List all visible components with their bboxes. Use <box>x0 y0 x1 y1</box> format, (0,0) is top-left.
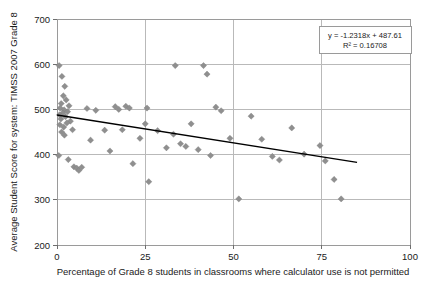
x-tick-label: 0 <box>54 251 59 262</box>
y-axis-title: Average Student Score for system: TIMSS … <box>8 12 19 251</box>
x-tick-label: 25 <box>140 251 151 262</box>
trendline-equation-text: y = -1.2318x + 487.61 <box>328 31 402 40</box>
chart-canvas: 200300400500600700 0255075100 y = -1.231… <box>0 0 431 293</box>
r-squared-text: R² = 0.16708 <box>343 41 387 50</box>
y-tick-label: 300 <box>34 194 50 205</box>
scatter-chart: 200300400500600700 0255075100 y = -1.231… <box>0 0 431 293</box>
y-axis-tick-labels: 200300400500600700 <box>34 14 50 251</box>
x-axis-title: Percentage of Grade 8 students in classr… <box>57 266 410 277</box>
y-tick-label: 500 <box>34 104 50 115</box>
x-axis-tick-labels: 0255075100 <box>54 251 418 262</box>
y-tick-label: 200 <box>34 240 50 251</box>
x-tick-label: 75 <box>316 251 327 262</box>
x-tick-label: 50 <box>228 251 239 262</box>
x-tick-label: 100 <box>402 251 418 262</box>
y-tick-label: 600 <box>34 59 50 70</box>
y-tick-label: 700 <box>34 14 50 25</box>
equation-annotation: y = -1.2318x + 487.61 R² = 0.16708 <box>319 26 411 53</box>
y-tick-label: 400 <box>34 149 50 160</box>
